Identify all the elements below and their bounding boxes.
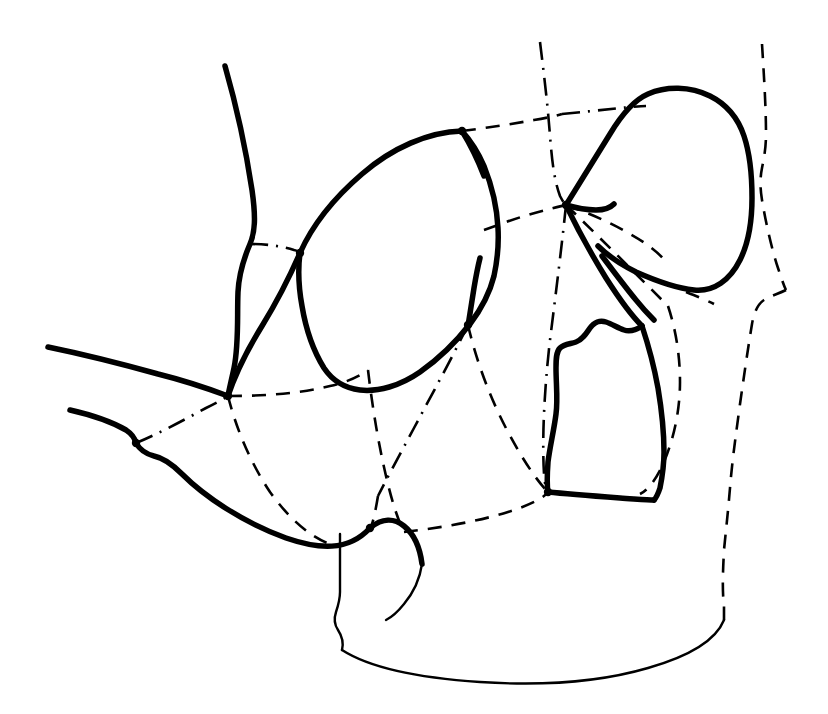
ventral-convergence-node — [544, 488, 552, 496]
anterior-tentorial-node — [224, 392, 232, 400]
posterior-tentorial-node — [562, 201, 570, 209]
labial-node — [132, 439, 140, 447]
mandibular-articulation-node — [366, 524, 374, 532]
frontal-suture-node — [458, 127, 466, 135]
figure-canvas — [0, 0, 828, 714]
genal-node — [296, 249, 304, 257]
line-drawing-svg — [0, 0, 828, 714]
figure-background — [0, 0, 828, 714]
ocular-posterior-node — [464, 321, 472, 329]
